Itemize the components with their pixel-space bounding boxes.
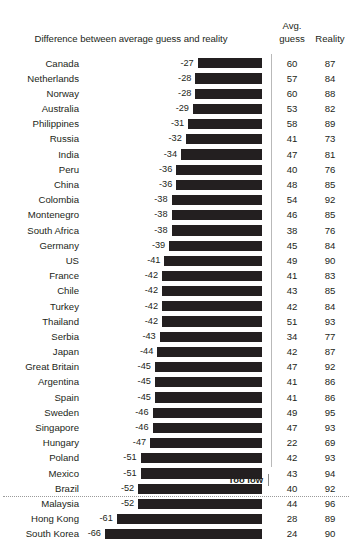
country-label: Turkey bbox=[0, 301, 79, 312]
reality-value: 89 bbox=[310, 118, 350, 129]
difference-value-label: -28 bbox=[161, 73, 191, 83]
difference-value-label: -38 bbox=[138, 225, 168, 235]
difference-bar bbox=[138, 499, 262, 509]
chart-row: France-424183 bbox=[0, 269, 352, 284]
difference-bar bbox=[198, 58, 262, 68]
country-label: Germany bbox=[0, 240, 79, 251]
difference-bar bbox=[157, 347, 262, 357]
avg-guess-value: 22 bbox=[274, 437, 310, 448]
avg-guess-value: 43 bbox=[274, 468, 310, 479]
difference-bar bbox=[160, 332, 262, 342]
country-label: US bbox=[0, 255, 79, 266]
reality-value: 95 bbox=[310, 407, 350, 418]
reality-value: 90 bbox=[310, 255, 350, 266]
avg-guess-value: 44 bbox=[274, 498, 310, 509]
chart-row: China-364885 bbox=[0, 178, 352, 193]
chart-row: Canada-276087 bbox=[0, 56, 352, 71]
chart-row: Thailand-425193 bbox=[0, 314, 352, 329]
difference-bar bbox=[176, 165, 262, 175]
chart-row: Serbia-433477 bbox=[0, 329, 352, 344]
country-label: South Africa bbox=[0, 225, 79, 236]
reality-value: 92 bbox=[310, 361, 350, 372]
reality-value: 85 bbox=[310, 285, 350, 296]
difference-bar bbox=[150, 438, 262, 448]
avg-guess-value: 45 bbox=[274, 240, 310, 251]
country-label: Singapore bbox=[0, 422, 79, 433]
chart-row: Colombia-385492 bbox=[0, 193, 352, 208]
avg-guess-value: 41 bbox=[274, 270, 310, 281]
avg-guess-value: 41 bbox=[274, 133, 310, 144]
chart-row: Malaysia-524496 bbox=[0, 496, 352, 511]
reality-value: 84 bbox=[310, 240, 350, 251]
country-label: Poland bbox=[0, 452, 79, 463]
difference-bar bbox=[155, 362, 262, 372]
difference-bar bbox=[181, 149, 262, 159]
country-label: Hong Kong bbox=[0, 513, 79, 524]
chart-row: Spain-454186 bbox=[0, 390, 352, 405]
reality-value: 73 bbox=[310, 133, 350, 144]
chart-row: Hungary-472269 bbox=[0, 436, 352, 451]
reality-value: 90 bbox=[310, 528, 350, 539]
chart-row: Hong Kong-612889 bbox=[0, 512, 352, 527]
chart-row: Russia-324173 bbox=[0, 132, 352, 147]
country-label: China bbox=[0, 179, 79, 190]
chart-row: Australia-295382 bbox=[0, 102, 352, 117]
difference-bar bbox=[162, 286, 262, 296]
avg-guess-value: 41 bbox=[274, 376, 310, 387]
difference-bar bbox=[186, 134, 262, 144]
difference-bar bbox=[195, 73, 262, 83]
avg-guess-value: 24 bbox=[274, 528, 310, 539]
chart-header: Difference between average guess and rea… bbox=[0, 0, 352, 55]
reality-value: 89 bbox=[310, 513, 350, 524]
country-label: Canada bbox=[0, 58, 79, 69]
avg-guess-value: 34 bbox=[274, 331, 310, 342]
reality-value: 87 bbox=[310, 346, 350, 357]
country-label: Spain bbox=[0, 392, 79, 403]
country-label: Sweden bbox=[0, 407, 79, 418]
avg-guess-value: 41 bbox=[274, 392, 310, 403]
chart-row: Poland-514293 bbox=[0, 451, 352, 466]
avg-guess-value: 47 bbox=[274, 149, 310, 160]
difference-bar bbox=[105, 529, 262, 539]
country-label: Peru bbox=[0, 164, 79, 175]
difference-bar bbox=[172, 225, 262, 235]
avg-guess-value: 38 bbox=[274, 225, 310, 236]
difference-value-label: -38 bbox=[138, 194, 168, 204]
reality-value: 94 bbox=[310, 468, 350, 479]
difference-value-label: -46 bbox=[119, 422, 149, 432]
reality-value: 76 bbox=[310, 225, 350, 236]
chart-row: Germany-394584 bbox=[0, 238, 352, 253]
avg-guess-value: 48 bbox=[274, 179, 310, 190]
chart-row: US-414990 bbox=[0, 253, 352, 268]
too-low-annotation: Too low bbox=[0, 474, 272, 490]
difference-bar bbox=[162, 301, 262, 311]
reality-value: 85 bbox=[310, 209, 350, 220]
chart-row: Japan-444287 bbox=[0, 345, 352, 360]
avg-guess-value: 28 bbox=[274, 513, 310, 524]
difference-bar bbox=[193, 104, 262, 114]
reality-value: 76 bbox=[310, 164, 350, 175]
difference-value-label: -41 bbox=[130, 255, 160, 265]
difference-bar bbox=[195, 89, 262, 99]
country-label: Japan bbox=[0, 346, 79, 357]
reality-value: 85 bbox=[310, 179, 350, 190]
avg-guess-value: 58 bbox=[274, 118, 310, 129]
difference-value-label: -47 bbox=[116, 437, 146, 447]
country-label: Australia bbox=[0, 103, 79, 114]
country-label: Montenegro bbox=[0, 209, 79, 220]
country-label: Great Britain bbox=[0, 361, 79, 372]
difference-bar bbox=[153, 408, 262, 418]
reality-value: 93 bbox=[310, 422, 350, 433]
difference-bar bbox=[162, 271, 262, 281]
difference-value-label: -28 bbox=[161, 88, 191, 98]
difference-value-label: -45 bbox=[121, 392, 151, 402]
avg-guess-value: 42 bbox=[274, 346, 310, 357]
country-label: Russia bbox=[0, 133, 79, 144]
avg-guess-value: 43 bbox=[274, 285, 310, 296]
difference-value-label: -52 bbox=[104, 498, 134, 508]
reality-value: 84 bbox=[310, 301, 350, 312]
avg-guess-value: 46 bbox=[274, 209, 310, 220]
difference-bar bbox=[188, 119, 262, 129]
country-label: Philippines bbox=[0, 118, 79, 129]
chart-row: Turkey-424284 bbox=[0, 299, 352, 314]
